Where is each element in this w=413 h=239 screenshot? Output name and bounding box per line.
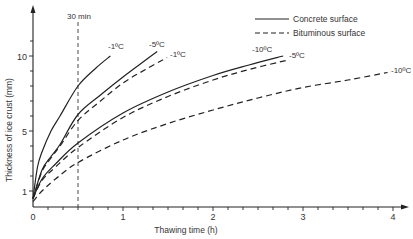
x-axis-arrow-icon <box>401 205 409 210</box>
y-axis-title: Thickness of ice crust (mm) <box>4 78 14 182</box>
x-tick-label: 4 <box>390 212 395 222</box>
curve-concrete-10-c <box>33 56 283 199</box>
x-tick-label: 0 <box>30 212 35 222</box>
curve-label-bituminous-10: -10ºC <box>391 66 411 75</box>
reference-line-label: 30 min <box>67 12 91 21</box>
curve-label-concrete-10: -10ºC <box>252 45 272 54</box>
ice-crust-chart: 0 1 2 3 4 10 5 1 Thawing time (h) Thickn… <box>0 0 413 239</box>
x-axis-title: Thawing time (h) <box>154 225 217 235</box>
x-tick-label: 3 <box>300 212 305 222</box>
y-tick-label: 1 <box>22 187 27 197</box>
x-tick-label: 2 <box>210 212 215 222</box>
x-ticks <box>48 207 393 211</box>
y-axis-arrow-icon <box>31 5 36 13</box>
legend-label-concrete: Concrete surface <box>293 14 358 24</box>
curve-bituminous-5-c <box>33 61 286 199</box>
y-tick-label: 5 <box>22 127 27 137</box>
curves <box>33 52 388 202</box>
curve-concrete-5-c <box>33 52 157 199</box>
curve-label-bituminous-1: -1ºC <box>170 50 186 59</box>
y-tick-label: 10 <box>17 52 27 62</box>
y-ticks <box>29 41 33 191</box>
curve-label-concrete-5: -5ºC <box>149 40 165 49</box>
curve-label-bituminous-5: -5ºC <box>289 51 305 60</box>
x-tick-label: 1 <box>120 212 125 222</box>
legend: Concrete surface Bituminous surface <box>255 14 366 38</box>
legend-label-bituminous: Bituminous surface <box>293 28 366 38</box>
curve-label-concrete-1: -1ºC <box>108 42 124 51</box>
